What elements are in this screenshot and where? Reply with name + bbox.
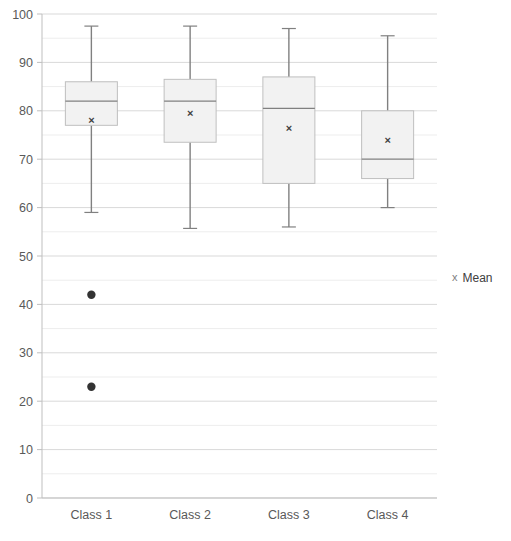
x-tick-label-3: Class 3 <box>268 508 310 522</box>
mean-marker: × <box>187 107 193 119</box>
box-plot-chart: 0102030405060708090100×Class 1×Class 2×C… <box>0 0 511 541</box>
box-plot-2: × <box>164 26 216 228</box>
outlier-point <box>87 291 95 299</box>
outlier-point <box>87 382 95 390</box>
y-tick-label: 100 <box>12 8 33 22</box>
y-tick-label: 60 <box>19 201 33 215</box>
y-tick-label: 20 <box>19 395 33 409</box>
y-tick-label: 40 <box>19 298 33 312</box>
legend-label-mean: Mean <box>463 271 493 285</box>
box-plot-3: × <box>263 29 315 227</box>
y-tick-label: 50 <box>19 250 33 264</box>
mean-marker: × <box>286 122 292 134</box>
y-tick-label: 90 <box>19 56 33 70</box>
y-tick-label: 70 <box>19 153 33 167</box>
x-tick-label-2: Class 2 <box>169 508 211 522</box>
y-tick-label: 10 <box>19 443 33 457</box>
mean-marker: × <box>384 134 390 146</box>
y-tick-label: 80 <box>19 104 33 118</box>
mean-marker-icon: x <box>452 272 458 283</box>
box-plot-1: × <box>65 26 117 391</box>
mean-marker: × <box>88 114 94 126</box>
plot-area: 0102030405060708090100×Class 1×Class 2×C… <box>0 0 511 541</box>
x-tick-label-4: Class 4 <box>367 508 409 522</box>
y-tick-label: 0 <box>26 492 33 506</box>
box-plot-4: × <box>362 36 414 208</box>
y-tick-label: 30 <box>19 346 33 360</box>
legend: x Mean <box>452 271 493 285</box>
x-tick-label-1: Class 1 <box>71 508 113 522</box>
